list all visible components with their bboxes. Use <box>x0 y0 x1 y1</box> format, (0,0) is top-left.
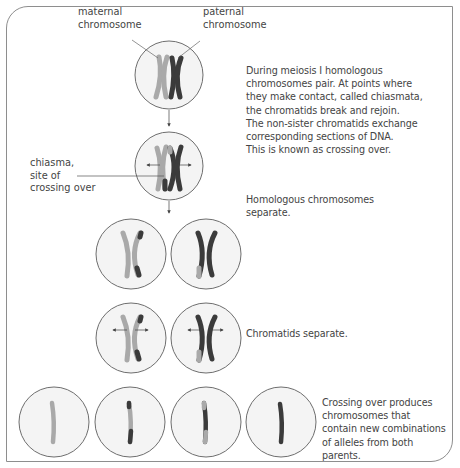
label-maternal-chromosome: maternal chromosome <box>78 6 142 31</box>
label-chiasma: chiasma, site of crossing over <box>30 157 96 195</box>
caption-chromatids-separate: Chromatids separate. <box>246 327 348 340</box>
caption-homologs-separate: Homologous chromosomes separate. <box>246 193 374 219</box>
cells-chromatids-separating <box>96 303 241 373</box>
label-paternal-chromosome: paternal chromosome <box>203 6 267 31</box>
cells-resulting-chromosomes <box>19 387 316 457</box>
cell-paired-homologs <box>132 40 203 126</box>
cells-homologs-separated <box>96 219 241 289</box>
caption-pairing: During meiosis I homologous chromosomes … <box>246 64 423 156</box>
cell-crossing-over <box>77 132 203 213</box>
caption-result: Crossing over produces chromosomes that … <box>322 396 446 462</box>
